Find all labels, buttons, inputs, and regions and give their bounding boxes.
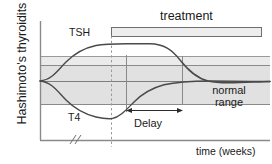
treatment-bar xyxy=(112,28,262,37)
delay-label: Delay xyxy=(134,118,162,130)
chart-canvas xyxy=(0,0,272,164)
delay-arrow xyxy=(126,108,183,113)
treatment-label: treatment xyxy=(160,10,213,23)
thyroid-treatment-chart: Hashimoto's thyroidits treatment TSH T4 … xyxy=(0,0,272,164)
normal-range-label-line2: range xyxy=(215,96,243,108)
y-axis-label: Hashimoto's thyroidits xyxy=(16,0,29,132)
x-axis-label: time (weeks) xyxy=(196,146,256,157)
tsh-series-label: TSH xyxy=(69,27,90,38)
t4-series-label: T4 xyxy=(68,112,80,123)
upper-light-band xyxy=(40,56,270,65)
x-axis-break-icon xyxy=(70,135,81,144)
normal-range-label: normalrange xyxy=(202,85,256,108)
normal-range-label-line1: normal xyxy=(212,84,246,96)
